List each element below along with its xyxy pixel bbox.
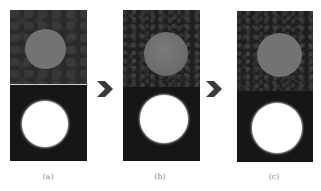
panel-c-label: (c) bbox=[259, 172, 289, 181]
panel-b-label: (b) bbox=[145, 172, 175, 181]
gray-circle bbox=[25, 29, 66, 69]
panel-b-top-image bbox=[123, 10, 200, 87]
chevron-right-icon bbox=[205, 80, 223, 98]
panel-c-top-image bbox=[237, 11, 313, 91]
panel-a-bottom-image bbox=[10, 85, 87, 161]
white-circle-mask bbox=[22, 101, 68, 147]
chevron-right-icon bbox=[96, 80, 114, 98]
panel-b bbox=[123, 10, 200, 161]
white-circle-mask bbox=[140, 95, 188, 143]
gray-circle bbox=[257, 33, 302, 77]
panel-c-bottom-image bbox=[237, 91, 313, 162]
white-circle-mask bbox=[252, 103, 302, 153]
panel-a bbox=[10, 10, 87, 161]
gray-circle bbox=[144, 32, 188, 76]
panel-b-bottom-image bbox=[123, 87, 200, 161]
panel-a-top-image bbox=[10, 10, 87, 84]
panel-c bbox=[237, 11, 313, 162]
panel-a-label: (a) bbox=[33, 172, 63, 181]
